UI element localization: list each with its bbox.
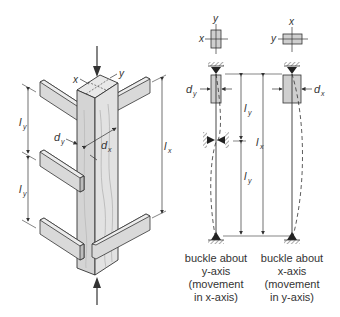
section-axis-x-label: x xyxy=(198,33,205,44)
column-buckling-diagram: x y l y xyxy=(0,0,340,317)
label-dy-iso: d xyxy=(54,131,61,143)
caption-y-line1: buckle about xyxy=(185,252,247,264)
caption-x-line3: (movement xyxy=(264,278,319,290)
label-dx-section-sub: x xyxy=(320,90,325,97)
caption-buckle-y: buckle about y-axis (movement in x-axis) xyxy=(185,252,247,303)
label-dx-iso-sub: x xyxy=(107,146,112,153)
axis-label-y-iso: y xyxy=(118,68,125,79)
section-axis-y-label-right: y xyxy=(270,33,277,44)
section-x: x y xyxy=(270,16,308,52)
label-dy-iso-sub: y xyxy=(60,138,65,146)
caption-y-line4: in x-axis) xyxy=(194,291,238,303)
label-ly-lower: l xyxy=(19,183,22,195)
label-dx-iso: d xyxy=(101,139,108,151)
caption-x-line2: x-axis xyxy=(278,265,307,277)
label-lx-iso-sub: x xyxy=(167,147,172,154)
label-dx-section: d xyxy=(314,83,321,95)
dimension-lx-right: l x xyxy=(152,75,172,218)
label-ly-lower-section-sub: y xyxy=(247,177,252,185)
section-y: y x xyxy=(198,13,228,54)
section-axis-y-label: y xyxy=(212,13,219,24)
label-ly-upper-section: l xyxy=(244,102,247,114)
label-ly-lower-sub: y xyxy=(22,190,27,198)
dimension-ly-left: l y l y xyxy=(19,84,36,228)
section-axis-x-label-right: x xyxy=(288,16,295,27)
isometric-column-view: x y l y xyxy=(19,46,172,305)
axis-label-x-iso: x xyxy=(72,74,79,85)
caption-x-line1: buckle about xyxy=(261,252,323,264)
label-lx-section-sub: x xyxy=(259,143,264,150)
label-ly-lower-section: l xyxy=(244,170,247,182)
label-dy-section: d xyxy=(186,83,193,95)
caption-y-line3: (movement xyxy=(188,278,243,290)
label-lx-section: l xyxy=(256,136,259,148)
buckle-about-x-view: x y d x buckle about x-axis (movement in… xyxy=(261,16,325,303)
label-ly-upper-section-sub: y xyxy=(247,109,252,117)
label-ly-upper-sub: y xyxy=(22,123,27,131)
caption-buckle-x: buckle about x-axis (movement in y-axis) xyxy=(261,252,323,303)
caption-x-line4: in y-axis) xyxy=(270,291,314,303)
label-lx-iso: l xyxy=(164,140,167,152)
caption-y-line2: y-axis xyxy=(202,265,231,277)
label-ly-upper: l xyxy=(19,116,22,128)
label-dy-section-sub: y xyxy=(192,90,197,98)
